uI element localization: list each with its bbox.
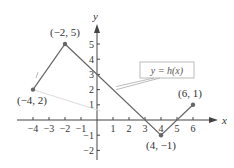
x-tick-label: 1 (111, 123, 116, 134)
x-axis-arrow-icon (209, 117, 218, 123)
x-tick-label: 6 (191, 123, 196, 134)
x-tick-label: −2 (60, 123, 71, 134)
chart: xy −4−3−2−1123456−2−112345 (−4, 2)(−2, 5… (0, 0, 234, 168)
y-tick-label: 2 (89, 84, 94, 95)
x-tick-label: 4 (159, 123, 164, 134)
x-axis-label: x (221, 114, 227, 126)
data-point (31, 87, 35, 91)
y-axis-arrow-icon (94, 24, 100, 33)
data-point (63, 42, 67, 46)
point-label: (4, −1) (146, 139, 176, 152)
y-tick-label: −1 (83, 130, 94, 141)
callout-label: y = h(x) (150, 65, 184, 77)
data-point (191, 103, 195, 107)
series (33, 44, 193, 135)
x-tick-label: 3 (143, 123, 148, 134)
callout-pointer (116, 78, 160, 90)
x-tick-label: −3 (44, 123, 55, 134)
y-tick-label: 5 (89, 39, 94, 50)
y-tick-label: −2 (83, 145, 94, 156)
point-label: (−4, 2) (17, 94, 47, 107)
x-tick-label: −4 (28, 123, 39, 134)
series-line (33, 44, 193, 135)
point-label: (−2, 5) (50, 26, 80, 39)
point-label: (6, 1) (178, 87, 202, 100)
x-tick-label: 5 (175, 123, 180, 134)
x-tick-label: 2 (127, 123, 132, 134)
y-tick-label: 4 (89, 54, 94, 65)
function-callout: y = h(x) (116, 62, 194, 90)
y-axis-label: y (92, 10, 98, 22)
data-point (159, 133, 163, 137)
tick-annotation (36, 72, 38, 78)
